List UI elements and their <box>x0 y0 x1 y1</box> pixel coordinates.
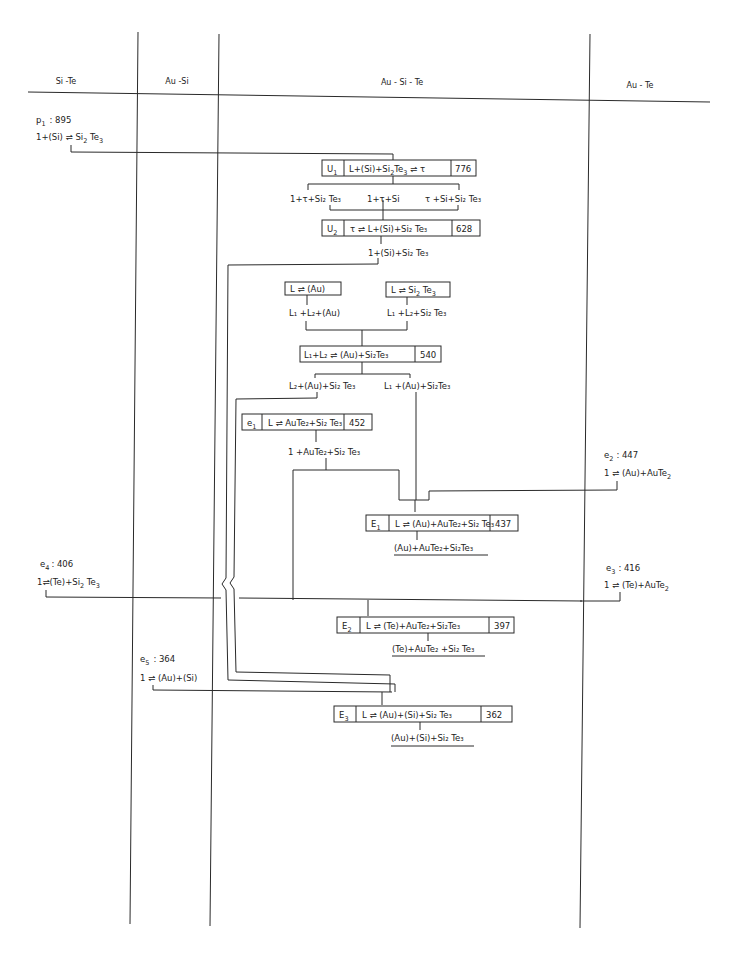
invariant-L-si2te3: L ⇌ Si2 Te3 <box>386 282 450 298</box>
svg-text:1 ⇌ (Au)+(Si): 1 ⇌ (Au)+(Si) <box>140 673 197 683</box>
svg-text:L ⇌ AuTe₂+Si₂ Te₃: L ⇌ AuTe₂+Si₂ Te₃ <box>268 418 342 428</box>
invariant-p1: p1: 895 1+(Si) ⇌ Si2 Te3 <box>36 115 393 160</box>
svg-text:540: 540 <box>420 350 436 360</box>
column-header-au-si-te: Au - Si - Te <box>381 78 423 87</box>
divider-au-si-au-si-te <box>210 34 219 926</box>
invariant-E1: E1 L ⇌ (Au)+AuTe₂+Si₂ Te₃ 437 <box>366 515 518 532</box>
svg-text:p1: 895: p1: 895 <box>36 115 71 128</box>
phase-field-after-l-au: L₁ +L₂+(Au) <box>289 308 340 318</box>
svg-text:L ⇌ (Te)+AuTe₂+Si₂Te₃: L ⇌ (Te)+AuTe₂+Si₂Te₃ <box>366 621 460 631</box>
invariant-540: L₁+L₂ ⇌ (Au)+Si₂Te₃ 540 <box>300 346 441 362</box>
phase-field-after-540-right: L₁ +(Au)+Si₂Te₃ <box>384 381 450 391</box>
invariant-e4: e4: 406 1⇌(Te)+Si2 Te3 <box>37 559 100 590</box>
svg-text:e2: 447: e2: 447 <box>604 450 638 463</box>
svg-text:e3: 416: e3: 416 <box>606 563 640 576</box>
phase-field-after-E3: (Au)+(Si)+Si₂ Te₃ <box>391 733 464 743</box>
connector-e1-to-e1E <box>293 470 415 600</box>
divider-si-te-au-si <box>130 32 138 924</box>
connector-e2-to-E1 <box>415 481 617 500</box>
reaction-scheme: Si -Te Au -Si Au - Si - Te Au - Te p1: 8… <box>0 0 738 961</box>
svg-text:397: 397 <box>494 621 510 631</box>
svg-text:1+(Si) ⇌ Si2 Te3: 1+(Si) ⇌ Si2 Te3 <box>36 132 103 145</box>
header-rule <box>28 92 710 102</box>
svg-text:1 ⇌ (Te)+AuTe2: 1 ⇌ (Te)+AuTe2 <box>604 580 669 593</box>
svg-text:437: 437 <box>495 519 511 529</box>
svg-text:L ⇌ (Au)+(Si)+Si₂ Te₃: L ⇌ (Au)+(Si)+Si₂ Te₃ <box>362 710 452 720</box>
column-header-au-te: Au - Te <box>627 81 654 90</box>
invariant-e1: e1 L ⇌ AuTe₂+Si₂ Te₃ 452 <box>242 414 372 431</box>
invariant-E2: E2 L ⇌ (Te)+AuTe₂+Si₂Te₃ 397 <box>337 617 514 634</box>
invariant-e2: e2: 447 1 ⇌ (Au)+AuTe2 <box>604 450 671 481</box>
svg-text:e5: 364: e5: 364 <box>140 654 175 667</box>
phase-field-after-l-si2te3: L₁ +L₂+Si₂ Te₃ <box>387 308 446 318</box>
phase-field-after-540-left: L₂+(Au)+Si₂ Te₃ <box>289 381 355 391</box>
svg-text:L₁+L₂ ⇌ (Au)+Si₂Te₃: L₁+L₂ ⇌ (Au)+Si₂Te₃ <box>304 350 388 360</box>
phase-field-after-u1-left: 1+τ+Si₂ Te₃ <box>290 194 341 204</box>
column-header-si-te: Si -Te <box>56 77 77 86</box>
svg-text:452: 452 <box>349 418 365 428</box>
divider-au-si-te-au-te <box>580 34 590 928</box>
invariant-e5: e5: 364 1 ⇌ (Au)+(Si) <box>140 654 197 683</box>
phase-field-after-E1: (Au)+AuTe₂+Si₂Te₃ <box>394 543 473 553</box>
invariant-U2: U2 τ ⇌ L+(Si)+Si₂ Te₃ 628 <box>322 220 480 237</box>
svg-text:e4: 406: e4: 406 <box>40 559 73 572</box>
column-header-au-si: Au -Si <box>165 77 188 86</box>
invariant-U1: U1 L+(Si)+Si2Te3 ⇌ τ 776 <box>322 160 476 177</box>
svg-text:L ⇌ (Au)+AuTe₂+Si₂ Te₃: L ⇌ (Au)+AuTe₂+Si₂ Te₃ <box>395 519 494 529</box>
phase-field-after-u2: 1+(Si)+Si₂ Te₃ <box>368 248 428 258</box>
svg-text:1 ⇌ (Au)+AuTe2: 1 ⇌ (Au)+AuTe2 <box>604 468 671 481</box>
connector-540-left-to-e3 <box>230 392 390 692</box>
phase-field-after-E2: (Te)+AuTe₂ +Si₂ Te₃ <box>392 644 474 654</box>
svg-text:L ⇌ (Au): L ⇌ (Au) <box>290 284 325 294</box>
svg-text:τ ⇌ L+(Si)+Si₂ Te₃: τ ⇌ L+(Si)+Si₂ Te₃ <box>350 224 427 234</box>
invariant-L-au: L ⇌ (Au) <box>285 282 341 295</box>
phase-field-after-u1-right: τ +Si+Si₂ Te₃ <box>425 194 481 204</box>
svg-text:776: 776 <box>455 164 471 174</box>
svg-text:1⇌(Te)+Si2 Te3: 1⇌(Te)+Si2 Te3 <box>37 577 100 590</box>
svg-text:362: 362 <box>486 710 502 720</box>
invariant-E3: E3 L ⇌ (Au)+(Si)+Si₂ Te₃ 362 <box>334 706 512 723</box>
invariant-e3: e3: 416 1 ⇌ (Te)+AuTe2 <box>604 563 669 593</box>
svg-text:628: 628 <box>456 224 472 234</box>
phase-field-after-e1: 1 +AuTe₂+Si₂ Te₃ <box>288 447 360 457</box>
